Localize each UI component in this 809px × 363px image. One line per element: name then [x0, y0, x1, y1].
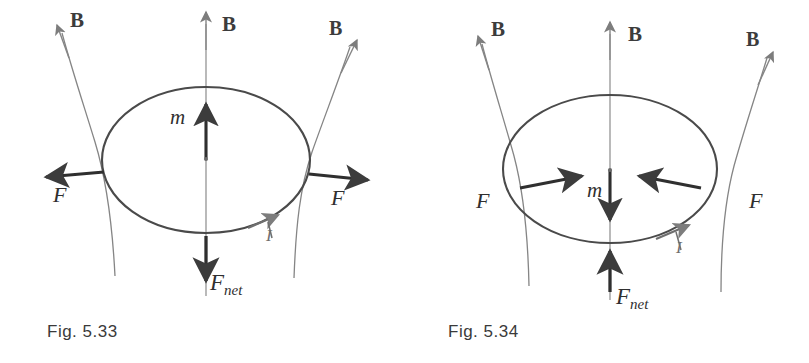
moment-origin-dot — [204, 157, 208, 161]
moment-vector — [204, 104, 208, 161]
f-arrow-right — [309, 174, 368, 180]
b-arrow-right — [341, 40, 357, 73]
figure-5-34: B B B F F m Fnet I Fig. 5.34 — [404, 0, 809, 363]
current-arrow — [248, 215, 278, 228]
b-field-line-left — [62, 33, 115, 276]
label-f-net-subscript: net — [224, 282, 242, 298]
label-f-right: F — [331, 185, 344, 211]
label-b-center: B — [222, 12, 236, 37]
label-f-left: F — [53, 182, 66, 208]
b-arrow-left — [57, 25, 69, 58]
f-arrow-left — [46, 172, 104, 177]
label-moment: m — [170, 105, 185, 130]
label-f-net-main: F — [210, 270, 224, 295]
label-current: I — [266, 226, 272, 246]
b-field-arrows — [0, 0, 357, 73]
current-direction-marker — [248, 215, 278, 238]
figure-5-34-drawing — [404, 0, 809, 363]
label-b-right: B — [329, 17, 342, 40]
label-b-left: B — [70, 8, 84, 33]
figure-caption: Fig. 5.34 — [448, 322, 519, 342]
label-f-net-main: F — [616, 284, 630, 309]
b-field-line-right — [721, 58, 767, 292]
label-f-net: Fnet — [210, 270, 242, 296]
moment-vector — [608, 168, 612, 220]
label-f-net: Fnet — [616, 284, 648, 310]
b-arrow-right — [758, 52, 773, 85]
f-arrow-left — [520, 176, 582, 188]
current-arrow — [656, 225, 689, 239]
force-vectors — [46, 172, 368, 180]
figure-caption: Fig. 5.33 — [47, 322, 118, 342]
label-moment: m — [587, 178, 602, 203]
b-field-line-left — [482, 44, 529, 286]
label-b-right: B — [746, 28, 759, 51]
b-field-arrows — [478, 36, 773, 85]
label-current: I — [676, 238, 682, 258]
label-b-left: B — [491, 17, 505, 42]
f-arrow-right — [639, 176, 701, 188]
label-b-center: B — [628, 22, 642, 47]
b-arrow-left — [478, 36, 489, 70]
b-field-lines — [482, 44, 767, 292]
label-f-net-subscript: net — [630, 296, 648, 312]
b-field-line-right — [294, 47, 350, 278]
figure-5-33: B B B F F m Fnet I Fig. 5.33 — [0, 0, 405, 363]
figure-sheet: B B B F F m Fnet I Fig. 5.33 — [0, 0, 809, 363]
label-f-right: F — [749, 188, 762, 214]
label-f-left: F — [476, 188, 489, 214]
moment-origin-dot — [608, 168, 612, 172]
